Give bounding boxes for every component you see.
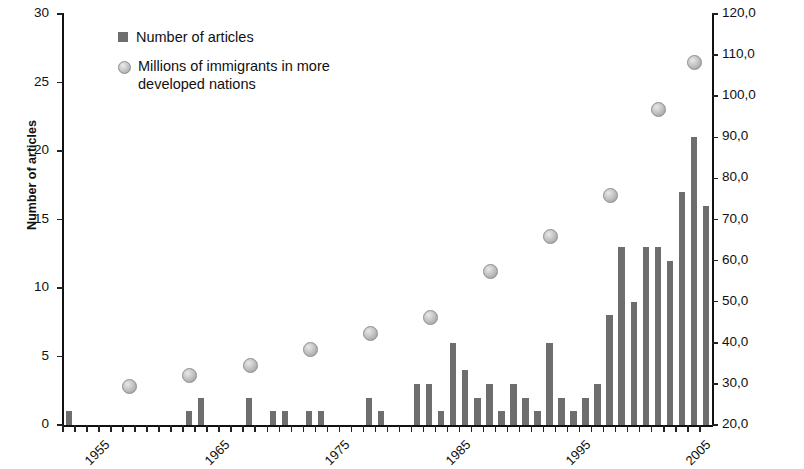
bar [282, 411, 288, 425]
y-tick-right [712, 137, 718, 139]
x-tick [86, 425, 87, 432]
x-tick-label: 1955 [81, 437, 112, 468]
bar [246, 398, 252, 425]
x-tick [218, 425, 219, 432]
x-tick [194, 425, 195, 432]
x-tick [411, 425, 412, 432]
bar [318, 411, 324, 425]
x-tick [206, 425, 207, 432]
x-tick [663, 425, 664, 432]
x-tick [387, 425, 388, 432]
x-tick [146, 425, 147, 432]
y-axis-label-left: Number of articles [25, 65, 39, 285]
x-tick [303, 425, 304, 432]
bar [306, 411, 312, 425]
scatter-point [303, 342, 318, 357]
y-tick-label-left: 0 [9, 416, 49, 431]
x-tick [327, 425, 328, 432]
x-tick [230, 425, 231, 432]
x-tick [134, 425, 135, 432]
y-tick-label-left: 30 [9, 5, 49, 20]
scatter-point [483, 264, 498, 279]
x-tick [675, 425, 676, 432]
bar [198, 398, 204, 425]
x-tick [98, 425, 99, 432]
y-tick-label-right: 120,0 [722, 5, 776, 20]
bar [426, 384, 432, 425]
bar [667, 261, 673, 425]
bar [679, 192, 685, 425]
x-tick [603, 425, 604, 432]
scatter-point [423, 310, 438, 325]
x-tick [567, 425, 568, 432]
x-tick [399, 425, 400, 432]
x-tick [507, 425, 508, 432]
x-tick [158, 425, 159, 432]
legend-label-immigrants-line1: Millions of immigrants in more [138, 58, 330, 74]
y-tick-label-left: 20 [9, 142, 49, 157]
y-tick-right [712, 95, 718, 97]
y-tick-label-left: 10 [9, 279, 49, 294]
y-tick-label-right: 70,0 [722, 211, 776, 226]
scatter-point [603, 188, 618, 203]
x-tick [423, 425, 424, 432]
x-tick [62, 425, 63, 432]
bar [366, 398, 372, 425]
y-tick-right [712, 301, 718, 303]
scatter-point [122, 379, 137, 394]
y-tick-label-right: 20,0 [722, 416, 776, 431]
bar [378, 411, 384, 425]
y-tick-right [712, 54, 718, 56]
y-tick-label-right: 110,0 [722, 46, 776, 61]
y-tick-right [712, 342, 718, 344]
y-tick-label-left: 25 [9, 74, 49, 89]
x-tick [555, 425, 556, 432]
bar [618, 247, 624, 425]
bar [522, 398, 528, 425]
y-tick-label-right: 90,0 [722, 128, 776, 143]
bar [534, 411, 540, 425]
y-tick-label-right: 80,0 [722, 169, 776, 184]
x-tick [651, 425, 652, 432]
bar [438, 411, 444, 425]
scatter-point [543, 229, 558, 244]
bar [594, 384, 600, 425]
x-tick [459, 425, 460, 432]
legend-item-articles: Number of articles [118, 28, 330, 46]
legend-label-immigrants: Millions of immigrants in more developed… [138, 57, 330, 93]
x-tick [339, 425, 340, 432]
x-tick [627, 425, 628, 432]
x-tick [363, 425, 364, 432]
scatter-point [243, 358, 258, 373]
y-tick-right [712, 260, 718, 262]
x-tick [531, 425, 532, 432]
x-tick [291, 425, 292, 432]
x-tick [351, 425, 352, 432]
bar [655, 247, 661, 425]
bar [462, 370, 468, 425]
x-tick [110, 425, 111, 432]
bar [703, 206, 709, 425]
y-tick-label-right: 50,0 [722, 293, 776, 308]
x-tick [699, 425, 700, 432]
x-tick [639, 425, 640, 432]
y-tick-right [712, 383, 718, 385]
x-tick-label: 1985 [442, 437, 473, 468]
x-tick [435, 425, 436, 432]
legend-label-immigrants-line2: developed nations [138, 76, 256, 92]
x-tick [495, 425, 496, 432]
bar [582, 398, 588, 425]
x-tick [375, 425, 376, 432]
x-tick [254, 425, 255, 432]
y-tick-label-right: 60,0 [722, 252, 776, 267]
y-tick-right [712, 424, 718, 426]
bar [546, 343, 552, 425]
x-tick [74, 425, 75, 432]
legend-circle-icon [118, 61, 131, 74]
bar [570, 411, 576, 425]
bar [186, 411, 192, 425]
x-tick [687, 425, 688, 432]
legend-square-icon [118, 32, 128, 42]
y-tick-label-left: 5 [9, 348, 49, 363]
bar [510, 384, 516, 425]
